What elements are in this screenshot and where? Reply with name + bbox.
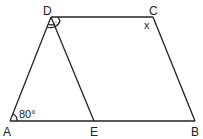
label-c: C bbox=[149, 4, 158, 18]
segment-bc bbox=[153, 17, 195, 121]
label-d: D bbox=[43, 4, 52, 18]
angle-label-c: x bbox=[144, 19, 150, 31]
angle-arc-a bbox=[13, 114, 17, 121]
segment-de bbox=[51, 17, 94, 121]
geometry-diagram: D C A E B 80° x bbox=[0, 0, 203, 139]
label-b: B bbox=[191, 125, 199, 139]
label-a: A bbox=[3, 125, 11, 139]
angle-label-a: 80° bbox=[19, 108, 36, 120]
label-e: E bbox=[90, 125, 98, 139]
segment-da bbox=[10, 17, 51, 121]
bisector-dot-d bbox=[55, 21, 56, 22]
angle-arc-d-inner bbox=[48, 24, 55, 25]
